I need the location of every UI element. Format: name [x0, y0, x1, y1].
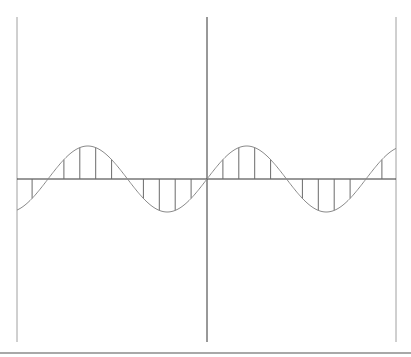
bottom-divider [0, 352, 411, 354]
sine-stem-plot [0, 0, 411, 357]
